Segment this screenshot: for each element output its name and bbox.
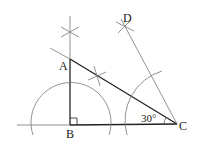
angle-arc-c — [164, 118, 166, 125]
angle-label-30: 30° — [141, 112, 156, 124]
label-b: B — [66, 127, 74, 141]
ray-cd — [121, 19, 177, 124]
construction-diagram: A B C D 30° — [0, 0, 197, 147]
label-c: C — [179, 119, 187, 133]
hypotenuse-extension — [50, 48, 70, 59]
segment-bc — [70, 124, 177, 125]
label-a: A — [59, 59, 68, 73]
label-d: D — [123, 11, 132, 25]
diagram-canvas: A B C D 30° — [0, 0, 197, 147]
right-angle-marker — [70, 118, 77, 125]
cross-mark-middle — [88, 66, 106, 86]
segment-ac — [70, 59, 177, 124]
